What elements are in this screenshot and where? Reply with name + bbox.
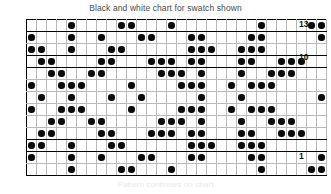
chart-cell[interactable]: [277, 116, 287, 128]
chart-cell[interactable]: [157, 128, 167, 140]
chart-cell[interactable]: [67, 140, 77, 152]
chart-cell[interactable]: [107, 92, 117, 104]
chart-cell[interactable]: [167, 68, 177, 80]
chart-cell[interactable]: [127, 152, 137, 164]
chart-cell[interactable]: [157, 56, 167, 68]
chart-cell[interactable]: [167, 104, 177, 116]
chart-cell[interactable]: [197, 116, 207, 128]
chart-cell[interactable]: [187, 140, 197, 152]
chart-cell[interactable]: [127, 56, 137, 68]
chart-cell[interactable]: [247, 164, 257, 176]
chart-cell[interactable]: [47, 68, 57, 80]
chart-cell[interactable]: [97, 116, 107, 128]
chart-cell[interactable]: [87, 152, 97, 164]
chart-cell[interactable]: [37, 128, 47, 140]
chart-cell[interactable]: [107, 116, 117, 128]
chart-cell[interactable]: [277, 152, 287, 164]
chart-cell[interactable]: [237, 44, 247, 56]
chart-cell[interactable]: [27, 128, 37, 140]
chart-cell[interactable]: [77, 20, 87, 32]
chart-cell[interactable]: [177, 104, 187, 116]
chart-cell[interactable]: [197, 164, 207, 176]
chart-cell[interactable]: [207, 140, 217, 152]
chart-cell[interactable]: [97, 104, 107, 116]
chart-cell[interactable]: [177, 164, 187, 176]
chart-cell[interactable]: [237, 56, 247, 68]
chart-cell[interactable]: [27, 152, 37, 164]
chart-cell[interactable]: [117, 20, 127, 32]
chart-cell[interactable]: [247, 92, 257, 104]
chart-cell[interactable]: [107, 44, 117, 56]
chart-cell[interactable]: [257, 20, 267, 32]
chart-cell[interactable]: [277, 20, 287, 32]
chart-cell[interactable]: [107, 80, 117, 92]
chart-cell[interactable]: [187, 116, 197, 128]
chart-cell[interactable]: [227, 32, 237, 44]
chart-cell[interactable]: [57, 164, 67, 176]
chart-cell[interactable]: [97, 164, 107, 176]
chart-cell[interactable]: [47, 140, 57, 152]
chart-cell[interactable]: [177, 140, 187, 152]
chart-cell[interactable]: [257, 68, 267, 80]
chart-cell[interactable]: [217, 56, 227, 68]
chart-cell[interactable]: [187, 44, 197, 56]
chart-cell[interactable]: [257, 44, 267, 56]
chart-cell[interactable]: [307, 164, 317, 176]
chart-cell[interactable]: [217, 92, 227, 104]
chart-cell[interactable]: [197, 92, 207, 104]
chart-cell[interactable]: [217, 152, 227, 164]
chart-cell[interactable]: [107, 68, 117, 80]
chart-cell[interactable]: [267, 140, 277, 152]
chart-cell[interactable]: [267, 80, 277, 92]
chart-cell[interactable]: [147, 20, 157, 32]
chart-cell[interactable]: [167, 128, 177, 140]
chart-cell[interactable]: [57, 152, 67, 164]
chart-cell[interactable]: [117, 128, 127, 140]
chart-cell[interactable]: [27, 116, 37, 128]
chart-cell[interactable]: [97, 56, 107, 68]
chart-cell[interactable]: [167, 44, 177, 56]
chart-cell[interactable]: [207, 44, 217, 56]
chart-cell[interactable]: [287, 140, 297, 152]
chart-cell[interactable]: [137, 32, 147, 44]
chart-cell[interactable]: [207, 164, 217, 176]
chart-cell[interactable]: [287, 92, 297, 104]
chart-cell[interactable]: [167, 92, 177, 104]
chart-cell[interactable]: [147, 128, 157, 140]
chart-cell[interactable]: [167, 164, 177, 176]
chart-cell[interactable]: [127, 104, 137, 116]
chart-cell[interactable]: [287, 20, 297, 32]
chart-cell[interactable]: [287, 32, 297, 44]
chart-cell[interactable]: [267, 68, 277, 80]
chart-cell[interactable]: [27, 32, 37, 44]
chart-cell[interactable]: [197, 80, 207, 92]
chart-cell[interactable]: [207, 152, 217, 164]
chart-cell[interactable]: [147, 68, 157, 80]
chart-cell[interactable]: [67, 56, 77, 68]
chart-cell[interactable]: [57, 128, 67, 140]
chart-cell[interactable]: [117, 80, 127, 92]
chart-cell[interactable]: [67, 152, 77, 164]
chart-cell[interactable]: [137, 116, 147, 128]
chart-cell[interactable]: [197, 20, 207, 32]
chart-cell[interactable]: [127, 20, 137, 32]
chart-cell[interactable]: [237, 92, 247, 104]
chart-cell[interactable]: [77, 44, 87, 56]
chart-cell[interactable]: [277, 80, 287, 92]
chart-cell[interactable]: [97, 32, 107, 44]
chart-cell[interactable]: [27, 20, 37, 32]
chart-cell[interactable]: [177, 116, 187, 128]
chart-cell[interactable]: [207, 92, 217, 104]
chart-cell[interactable]: [217, 116, 227, 128]
chart-cell[interactable]: [147, 44, 157, 56]
chart-cell[interactable]: [137, 104, 147, 116]
chart-cell[interactable]: [77, 152, 87, 164]
chart-cell[interactable]: [87, 164, 97, 176]
chart-cell[interactable]: [117, 44, 127, 56]
chart-cell[interactable]: [97, 80, 107, 92]
chart-cell[interactable]: [127, 68, 137, 80]
chart-cell[interactable]: [147, 56, 157, 68]
chart-cell[interactable]: [227, 140, 237, 152]
chart-cell[interactable]: [227, 92, 237, 104]
chart-cell[interactable]: [57, 56, 67, 68]
